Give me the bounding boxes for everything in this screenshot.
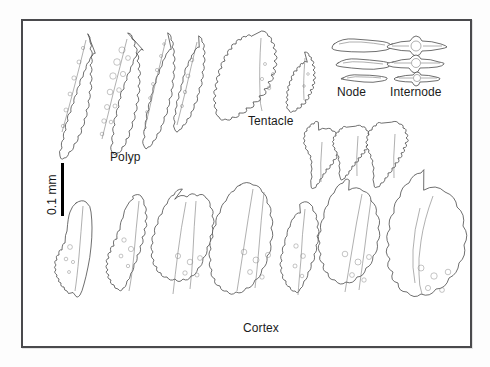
cortex-sclerite-3 xyxy=(151,189,214,294)
polyp-sclerite-3 xyxy=(143,33,175,149)
polyp-sclerite-2 xyxy=(100,33,143,155)
cortex-sclerite-upper-2 xyxy=(333,125,371,180)
scale-bar-label: 0.1 mm xyxy=(45,163,59,215)
cortex-sclerite-4 xyxy=(209,183,273,295)
cortex-sclerite-upper-1 xyxy=(304,121,341,188)
node-sclerite-1 xyxy=(332,39,391,52)
internode-sclerite-3 xyxy=(394,72,440,86)
node-sclerite-2 xyxy=(336,59,390,70)
group-label-node: Node xyxy=(337,85,366,99)
polyp-sclerite-1 xyxy=(59,34,95,159)
node-sclerite-3 xyxy=(341,75,387,83)
cortex-sclerite-6 xyxy=(318,179,380,292)
cortex-sclerite-7 xyxy=(386,169,467,296)
cortex-sclerite-2 xyxy=(106,195,147,292)
group-label-polyp: Polyp xyxy=(110,150,141,164)
group-label-cortex: Cortex xyxy=(243,321,279,335)
cortex-sclerite-upper-3 xyxy=(366,121,408,187)
scale-bar-rule xyxy=(61,163,64,216)
cortex-sclerite-5 xyxy=(280,202,319,295)
polyp-sclerite-4 xyxy=(174,36,206,132)
internode-sclerite-2 xyxy=(387,55,444,73)
group-label-internode: Internode xyxy=(390,85,442,99)
figure-plate: .o{fill:#ffffff;stroke:#3f3f3f;stroke-wi… xyxy=(0,0,490,367)
group-label-tentacle: Tentacle xyxy=(248,114,294,128)
tentacle-sclerite-1 xyxy=(214,31,278,120)
sclerite-drawings: .o{fill:#ffffff;stroke:#3f3f3f;stroke-wi… xyxy=(0,0,490,367)
internode-sclerite-1 xyxy=(387,36,447,56)
tentacle-sclerite-2 xyxy=(286,52,316,112)
